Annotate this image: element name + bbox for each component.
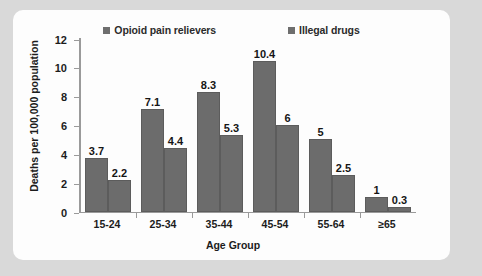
figure-frame: Opioid pain relievers Illegal drugs Deat… xyxy=(0,0,482,276)
bar-slot: 2.5 xyxy=(332,38,355,212)
bar-value-label: 6 xyxy=(284,112,290,124)
bar-value-label: 5.3 xyxy=(224,122,239,134)
y-axis-title: Deaths per 100,000 population xyxy=(28,31,40,201)
bar-group: 10.3 xyxy=(365,38,411,212)
bar-value-label: 5 xyxy=(317,126,323,138)
chart-legend: Opioid pain relievers Illegal drugs xyxy=(13,20,450,40)
bar-group: 3.72.2 xyxy=(85,38,131,212)
chart-panel: Opioid pain relievers Illegal drugs Deat… xyxy=(13,10,450,260)
bar-value-label: 10.4 xyxy=(254,48,275,60)
y-axis-tick: 6 xyxy=(74,126,79,127)
bar[interactable] xyxy=(141,109,164,212)
bar-value-label: 3.7 xyxy=(89,145,104,157)
bar-group: 8.35.3 xyxy=(197,38,243,212)
bar-value-label: 1 xyxy=(373,184,379,196)
bar[interactable] xyxy=(85,158,108,211)
x-axis-category-label: 25-34 xyxy=(135,218,191,230)
bar[interactable] xyxy=(108,180,131,212)
bar-group: 52.5 xyxy=(309,38,355,212)
bar[interactable] xyxy=(220,135,243,212)
bar-slot: 4.4 xyxy=(164,38,187,212)
plot-area: 024681012 3.72.27.14.48.35.310.4652.510.… xyxy=(79,38,416,213)
x-axis-category-label: 45-54 xyxy=(247,218,303,230)
legend-item-illegal-drugs: Illegal drugs xyxy=(288,24,360,36)
legend-swatch-icon xyxy=(288,27,295,34)
bar-value-label: 0.3 xyxy=(392,194,407,206)
bar[interactable] xyxy=(332,175,355,211)
y-axis-tick-label: 4 xyxy=(61,149,67,161)
bar[interactable] xyxy=(388,207,411,211)
y-axis-tick: 12 xyxy=(74,40,79,41)
bar[interactable] xyxy=(276,125,299,212)
x-axis-category-labels: 15-2425-3435-4445-5455-64≥65 xyxy=(79,218,416,236)
y-axis-tick: 8 xyxy=(74,97,79,98)
x-axis-category-label: 15-24 xyxy=(79,218,135,230)
x-axis-category-label: 35-44 xyxy=(191,218,247,230)
legend-swatch-icon xyxy=(103,27,110,34)
y-axis-tick: 4 xyxy=(74,155,79,156)
bar-groups: 3.72.27.14.48.35.310.4652.510.3 xyxy=(80,38,416,212)
y-axis-tick: 2 xyxy=(74,184,79,185)
bar[interactable] xyxy=(164,148,187,212)
legend-label-series-2: Illegal drugs xyxy=(299,24,360,36)
bar-slot: 6 xyxy=(276,38,299,212)
y-axis-tick-label: 0 xyxy=(61,207,67,219)
y-axis-tick-label: 10 xyxy=(55,62,67,74)
x-axis-category-label: 55-64 xyxy=(303,218,359,230)
bar-group: 10.46 xyxy=(253,38,299,212)
y-axis-tick: 0 xyxy=(74,213,79,214)
bar[interactable] xyxy=(253,61,276,211)
bar-slot: 7.1 xyxy=(141,38,164,212)
bar-slot: 3.7 xyxy=(85,38,108,212)
bar-value-label: 2.2 xyxy=(112,167,127,179)
bar-slot: 2.2 xyxy=(108,38,131,212)
bar-slot: 8.3 xyxy=(197,38,220,212)
bar-slot: 5 xyxy=(309,38,332,212)
x-axis-title: Age Group xyxy=(73,239,393,251)
x-axis-category-label: ≥65 xyxy=(359,218,415,230)
bar-slot: 0.3 xyxy=(388,38,411,212)
bar[interactable] xyxy=(365,197,388,211)
y-axis-tick-label: 6 xyxy=(61,120,67,132)
bar-value-label: 2.5 xyxy=(336,162,351,174)
bar-slot: 10.4 xyxy=(253,38,276,212)
bar[interactable] xyxy=(197,92,220,212)
bar-value-label: 8.3 xyxy=(201,79,216,91)
legend-item-opioid-pain-relievers: Opioid pain relievers xyxy=(103,24,216,36)
y-axis-tick-label: 2 xyxy=(61,178,67,190)
bar[interactable] xyxy=(309,139,332,211)
bar-slot: 1 xyxy=(365,38,388,212)
y-axis-tick-label: 8 xyxy=(61,91,67,103)
bar-slot: 5.3 xyxy=(220,38,243,212)
bar-value-label: 4.4 xyxy=(168,135,183,147)
bar-group: 7.14.4 xyxy=(141,38,187,212)
y-axis-tick-label: 12 xyxy=(55,34,67,46)
y-axis-tick: 10 xyxy=(74,68,79,69)
legend-label-series-1: Opioid pain relievers xyxy=(114,24,216,36)
bar-value-label: 7.1 xyxy=(145,96,160,108)
